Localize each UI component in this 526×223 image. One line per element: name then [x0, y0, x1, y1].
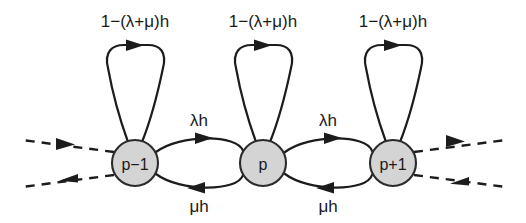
self-loop-arrowhead: [254, 40, 272, 52]
self-loop-arrowhead: [384, 40, 402, 52]
backward-edge-right: μh: [285, 174, 372, 216]
node-p-plus-1[interactable]: p+1: [370, 140, 416, 186]
self-loop-label-p-minus-1: 1−(λ+μ)h: [101, 12, 169, 31]
markov-chain-diagram: 1−(λ+μ)h 1−(λ+μ)h 1−(λ+μ)h λh λh: [0, 0, 526, 223]
self-loop-path: [107, 45, 164, 142]
continuation-left-out: [22, 174, 114, 187]
self-loop-label-p: 1−(λ+μ)h: [229, 12, 297, 31]
backward-edge-arrowhead: [316, 182, 334, 194]
self-loop-p: 1−(λ+μ)h: [229, 12, 297, 142]
self-loop-path: [235, 45, 292, 142]
node-label-p-minus-1: p−1: [121, 156, 148, 173]
self-loop-p-minus-1: 1−(λ+μ)h: [101, 12, 169, 142]
self-loop-arrowhead: [126, 40, 144, 52]
self-loop-label-p-plus-1: 1−(λ+μ)h: [359, 12, 427, 31]
forward-edge-arrowhead: [195, 133, 213, 145]
continuation-left-in: [22, 138, 114, 152]
backward-edge-label-right: μh: [318, 197, 337, 216]
backward-edge-left: μh: [156, 174, 243, 216]
forward-edge-label-left: λh: [190, 111, 208, 130]
self-loop-p-plus-1: 1−(λ+μ)h: [359, 12, 427, 142]
continuation-right-in: [414, 175, 506, 187]
forward-edge-right: λh: [285, 111, 372, 152]
forward-edge-label-right: λh: [319, 111, 337, 130]
backward-edge-arrowhead: [187, 182, 205, 194]
node-label-p: p: [259, 156, 268, 173]
self-loop-path: [365, 45, 422, 142]
backward-edge-label-left: μh: [189, 197, 208, 216]
node-p[interactable]: p: [240, 140, 286, 186]
dashed-arrowhead-right: [56, 138, 75, 150]
node-p-minus-1[interactable]: p−1: [112, 140, 158, 186]
forward-edge-left: λh: [156, 111, 243, 152]
forward-edge-arrowhead: [324, 133, 342, 145]
continuation-right-out: [414, 135, 506, 152]
node-label-p-plus-1: p+1: [379, 156, 406, 173]
diagram-canvas: 1−(λ+μ)h 1−(λ+μ)h 1−(λ+μ)h λh λh: [0, 0, 526, 223]
